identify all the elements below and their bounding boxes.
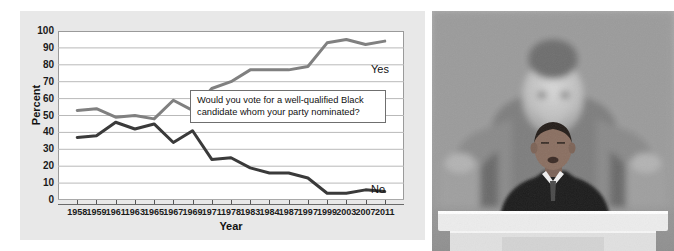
x-axis-title: Year: [58, 220, 404, 232]
y-tick-label: 50: [20, 111, 54, 121]
series-label-no: No: [371, 183, 385, 195]
series-label-yes: Yes: [371, 63, 389, 75]
survey-question-line-1: Would you vote for a well-qualified Blac…: [197, 95, 380, 107]
speaker-at-lincoln-memorial-photo: [432, 11, 674, 251]
chart-panel: Percent 100 90 80 70 60 50 40 30 20 10 0…: [20, 11, 425, 240]
y-tick-label: 60: [20, 94, 54, 104]
y-tick-label: 10: [20, 178, 54, 188]
gridlines: [58, 48, 404, 200]
x-axis-line: [58, 204, 404, 205]
survey-question-line-2: candidate whom your party nominated?: [197, 107, 380, 119]
figure-root: Percent 100 90 80 70 60 50 40 30 20 10 0…: [0, 0, 674, 251]
y-tick-label: 70: [20, 77, 54, 87]
y-tick-label: 80: [20, 60, 54, 70]
survey-question-callout: Would you vote for a well-qualified Blac…: [190, 90, 386, 123]
y-tick-label: 100: [20, 26, 54, 36]
x-axis-tick-labels: 1958195919611963196519671969197119781983…: [58, 207, 404, 219]
y-tick-label: 0: [20, 195, 54, 205]
photo-graphic: [432, 11, 674, 251]
y-tick-label: 30: [20, 144, 54, 154]
series-line-no: [77, 122, 385, 193]
y-axis-tick-labels: 100 90 80 70 60 50 40 30 20 10 0: [20, 31, 54, 200]
x-tick-label: 2011: [365, 207, 405, 218]
y-tick-label: 90: [20, 43, 54, 53]
y-tick-label: 40: [20, 127, 54, 137]
y-tick-label: 20: [20, 161, 54, 171]
